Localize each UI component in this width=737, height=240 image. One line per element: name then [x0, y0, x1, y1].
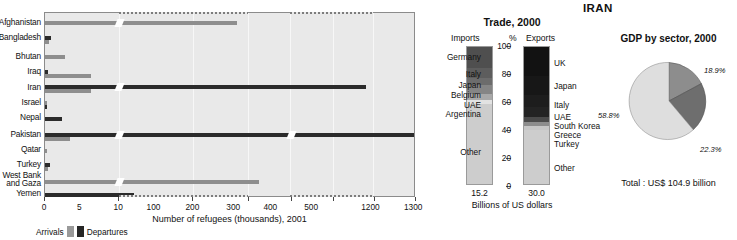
percent-label-60: 60: [502, 97, 511, 107]
gdp-total-label: Total : US$ 104.9 billion: [600, 178, 737, 188]
bar-iran-departures: [45, 85, 366, 89]
x-tick-label-500: 500: [304, 202, 318, 212]
gridline: [119, 13, 120, 196]
cat-label-israel: Israel: [22, 98, 41, 107]
bar-nepal-departures: [45, 117, 62, 121]
exports-label-uk: UK: [554, 58, 566, 68]
x-tick: [333, 197, 334, 201]
x-tick: [192, 197, 193, 201]
bar-bangladesh-arrivals: [45, 40, 49, 44]
axis-break-notch: [114, 178, 124, 186]
cat-label-west-bank-and-gaza: West Bank and Gaza: [2, 171, 41, 188]
exports-segment-other: [524, 130, 549, 184]
x-tick: [415, 197, 416, 201]
exports-total-value: 30.0: [523, 188, 550, 198]
legend-swatch-arrivals: [67, 226, 74, 237]
exports-header: Exports: [526, 33, 555, 43]
pie-label-18-9: 18.9%: [704, 66, 726, 75]
x-tick-label-1300: 1300: [404, 202, 422, 212]
percent-label-40: 40: [502, 125, 511, 135]
cat-label-iraq: Iraq: [27, 67, 41, 76]
refugee-plot-area: [44, 12, 415, 197]
percent-axis: 100 80 60 40 20 0: [496, 45, 522, 186]
cat-label-iran: Iran: [27, 83, 41, 92]
refugee-x-axis-title: Number of refugees (thousands), 2001: [44, 214, 415, 224]
axis-break-notch: [114, 131, 124, 139]
bar-iraq-arrivals: [45, 74, 91, 78]
imports-label-argentina: Argentina: [445, 109, 481, 119]
cat-label-afghanistan: Afghanistan: [0, 18, 41, 27]
bar-turkey-arrivals: [45, 167, 48, 171]
cat-label-nepal: Nepal: [20, 113, 41, 122]
x-tick-label-300: 300: [226, 202, 240, 212]
x-tick-label-0: 0: [42, 202, 47, 212]
gridline: [290, 13, 291, 196]
x-tick: [248, 197, 249, 201]
axis-break-strip-top: [290, 12, 373, 14]
bar-qatar-arrivals: [45, 149, 47, 153]
imports-label-germany: Germany: [447, 52, 481, 62]
axis-break-notch: [114, 19, 124, 27]
x-tick-label-400: 400: [263, 202, 277, 212]
imports-total-value: 15.2: [466, 188, 493, 198]
gdp-chart-title: GDP by sector, 2000: [600, 33, 737, 44]
percent-label-20: 20: [502, 153, 511, 163]
bar-west-bank-and-gaza-arrivals: [45, 180, 259, 184]
legend-swatch-departures: [77, 226, 84, 237]
cat-label-pakistan: Pakistan: [10, 130, 41, 139]
x-tick-label-1200: 1200: [361, 202, 379, 212]
imports-label-italy: Italy: [466, 69, 481, 79]
cat-label-bhutan: Bhutan: [16, 52, 41, 61]
gridline: [373, 13, 374, 196]
exports-segment-japan: [524, 76, 549, 95]
bar-israel-departures: [45, 105, 47, 109]
gridline: [248, 13, 249, 196]
cat-label-qatar: Qatar: [21, 145, 41, 154]
exports-label-other: Other: [554, 163, 575, 173]
imports-label-belgium: Belgium: [451, 90, 481, 100]
bar-iran-arrivals: [45, 89, 91, 93]
exports-segment-uk: [524, 47, 549, 76]
percent-label-80: 80: [502, 69, 511, 79]
refugee-bar-chart: Afghanistan Bangladesh Bhutan Iraq Iran …: [0, 0, 420, 240]
refugee-x-axis: 0 5 10 100 200 300 400 500 1200 1300: [44, 197, 415, 213]
x-tick: [44, 197, 45, 201]
bar-bhutan-arrivals: [45, 55, 65, 59]
pie-label-58-8: 58.8%: [598, 111, 620, 120]
bar-afghanistan-arrivals: [45, 21, 237, 25]
exports-stacked-bar: [523, 46, 550, 185]
trade-chart: Trade, 2000 Imports % Exports Germany It…: [424, 0, 600, 240]
bar-pakistan-arrivals: [45, 137, 70, 141]
legend-label-arrivals: Arrivals: [36, 227, 64, 237]
axis-break-strip-top: [119, 12, 248, 14]
imports-label-japan: Japan: [458, 80, 481, 90]
x-tick: [374, 197, 375, 201]
x-tick-label-10: 10: [114, 202, 123, 212]
pie-label-22-3: 22.3%: [700, 145, 722, 154]
refugee-category-labels: Afghanistan Bangladesh Bhutan Iraq Iran …: [0, 12, 42, 197]
gridline: [333, 13, 334, 196]
infographic-page: Afghanistan Bangladesh Bhutan Iraq Iran …: [0, 0, 737, 240]
x-tick-label-5: 5: [77, 202, 82, 212]
cat-label-yemen: Yemen: [16, 189, 41, 198]
trade-chart-title: Trade, 2000: [424, 16, 600, 28]
pie-graphic: [628, 60, 710, 142]
bar-pakistan-departures: [45, 133, 414, 137]
gdp-pie-chart: GDP by sector, 2000 18.9% 22.3% 58.8% To…: [600, 0, 737, 240]
exports-segment-uae: [524, 107, 549, 117]
x-tick: [291, 197, 292, 201]
legend-label-departures: Departures: [87, 227, 128, 237]
trade-axis-title: Billions of US dollars: [424, 200, 600, 210]
imports-label-other: Other: [460, 147, 481, 157]
cat-label-turkey: Turkey: [17, 160, 41, 169]
x-tick-label-100: 100: [147, 202, 161, 212]
refugee-legend: Arrivals Departures: [36, 226, 128, 237]
imports-header: Imports: [451, 33, 480, 43]
cat-label-bangladesh: Bangladesh: [0, 33, 41, 42]
percent-label-100: 100: [497, 41, 511, 51]
exports-label-turkey: Turkey: [554, 139, 579, 149]
x-tick: [118, 197, 119, 201]
exports-label-japan: Japan: [554, 81, 577, 91]
x-tick-label-200: 200: [185, 202, 199, 212]
gridline: [193, 13, 194, 196]
